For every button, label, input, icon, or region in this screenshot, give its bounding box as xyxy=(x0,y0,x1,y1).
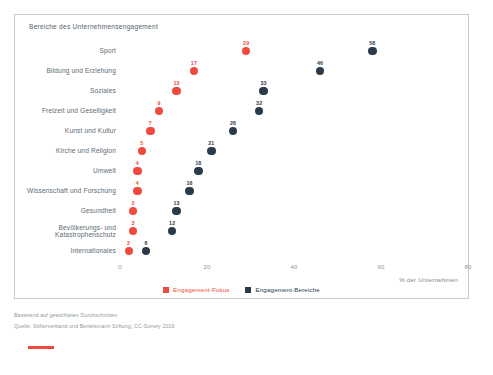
data-point-bereiche[interactable] xyxy=(142,247,150,255)
data-value-label: 17 xyxy=(191,60,197,66)
chart-row: Umwelt418 xyxy=(15,161,468,181)
data-value-label: 16 xyxy=(186,180,192,186)
category-label: Kunst und Kultur xyxy=(15,127,116,135)
data-point-bereiche[interactable] xyxy=(255,107,263,115)
data-value-label: 33 xyxy=(260,80,266,86)
plot-area: Sport2958Bildung und Erziehung1746Sozial… xyxy=(15,15,468,298)
data-value-label: 4 xyxy=(136,160,139,166)
chart-row: Bevölkerungs- und Katastrophenschutz312 xyxy=(15,221,468,241)
data-point-bereiche[interactable] xyxy=(368,47,376,55)
x-axis-label: % der Unternehmen xyxy=(399,276,458,283)
chart-row: Soziales1333 xyxy=(15,81,468,101)
chart-row: Kunst und Kultur726 xyxy=(15,121,468,141)
data-point-bereiche[interactable] xyxy=(259,87,267,95)
data-point-bereiche[interactable] xyxy=(207,147,215,155)
x-tick-label: 0 xyxy=(118,264,122,270)
x-tick-label: 40 xyxy=(290,264,297,270)
legend-label: Engagement-Fokus xyxy=(173,286,229,293)
data-value-label: 26 xyxy=(230,120,236,126)
chart-row: Freizeit und Geselligkeit932 xyxy=(15,101,468,121)
category-label: Sport xyxy=(15,47,116,55)
legend-swatch-icon xyxy=(245,287,251,293)
category-label: Internationales xyxy=(15,247,116,255)
data-point-bereiche[interactable] xyxy=(229,127,237,135)
data-value-label: 58 xyxy=(369,40,375,46)
footer-accent-bar xyxy=(28,346,54,349)
category-label: Soziales xyxy=(15,87,116,95)
category-label: Gesundheit xyxy=(15,207,116,215)
category-label: Umwelt xyxy=(15,167,116,175)
data-value-label: 32 xyxy=(256,100,262,106)
data-point-fokus[interactable] xyxy=(190,67,198,75)
footnote-basis: Basierend auf gewichteten Durchschnitten xyxy=(14,312,117,318)
data-value-label: 2 xyxy=(127,240,130,246)
x-tick-label: 80 xyxy=(464,264,471,270)
chart-row: Bildung und Erziehung1746 xyxy=(15,61,468,81)
data-point-bereiche[interactable] xyxy=(185,187,193,195)
chart-figure: Bereiche des Unternehmensengagement Spor… xyxy=(14,14,469,299)
data-point-fokus[interactable] xyxy=(138,147,146,155)
chart-row: Sport2958 xyxy=(15,41,468,61)
data-point-fokus[interactable] xyxy=(155,107,163,115)
data-value-label: 13 xyxy=(173,80,179,86)
footnote-source: Quelle: Stifterverband und Bertelsmann S… xyxy=(14,323,175,329)
data-value-label: 29 xyxy=(243,40,249,46)
chart-legend: Engagement-FokusEngagement-Bereiche xyxy=(15,286,468,293)
chart-row: Gesundheit313 xyxy=(15,201,468,221)
category-label: Freizeit und Geselligkeit xyxy=(15,107,116,115)
data-value-label: 3 xyxy=(131,200,134,206)
data-value-label: 4 xyxy=(136,180,139,186)
legend-item[interactable]: Engagement-Bereiche xyxy=(245,286,319,293)
data-value-label: 13 xyxy=(173,200,179,206)
chart-row: Wissenschaft und Forschung416 xyxy=(15,181,468,201)
legend-swatch-icon xyxy=(163,287,169,293)
data-value-label: 5 xyxy=(140,140,143,146)
data-value-label: 46 xyxy=(317,60,323,66)
category-label: Bildung und Erziehung xyxy=(15,67,116,75)
chart-row: Kirche und Religion521 xyxy=(15,141,468,161)
category-label: Wissenschaft und Forschung xyxy=(15,187,116,195)
data-value-label: 9 xyxy=(158,100,161,106)
data-point-fokus[interactable] xyxy=(172,87,180,95)
data-point-fokus[interactable] xyxy=(129,207,137,215)
category-label: Bevölkerungs- und Katastrophenschutz xyxy=(15,224,116,239)
data-point-bereiche[interactable] xyxy=(168,227,176,235)
data-value-label: 18 xyxy=(195,160,201,166)
data-point-fokus[interactable] xyxy=(133,167,141,175)
chart-row: Internationales26 xyxy=(15,241,468,261)
data-point-fokus[interactable] xyxy=(146,127,154,135)
legend-label: Engagement-Bereiche xyxy=(255,286,319,293)
data-point-fokus[interactable] xyxy=(242,47,250,55)
data-point-fokus[interactable] xyxy=(133,187,141,195)
data-value-label: 21 xyxy=(208,140,214,146)
data-point-bereiche[interactable] xyxy=(316,67,324,75)
data-value-label: 12 xyxy=(169,220,175,226)
data-point-bereiche[interactable] xyxy=(172,207,180,215)
data-value-label: 7 xyxy=(149,120,152,126)
data-value-label: 6 xyxy=(145,240,148,246)
data-value-label: 3 xyxy=(131,220,134,226)
data-point-fokus[interactable] xyxy=(125,247,133,255)
x-tick-label: 60 xyxy=(377,264,384,270)
data-point-bereiche[interactable] xyxy=(194,167,202,175)
legend-item[interactable]: Engagement-Fokus xyxy=(163,286,229,293)
x-tick-label: 20 xyxy=(203,264,210,270)
data-point-fokus[interactable] xyxy=(129,227,137,235)
category-label: Kirche und Religion xyxy=(15,147,116,155)
